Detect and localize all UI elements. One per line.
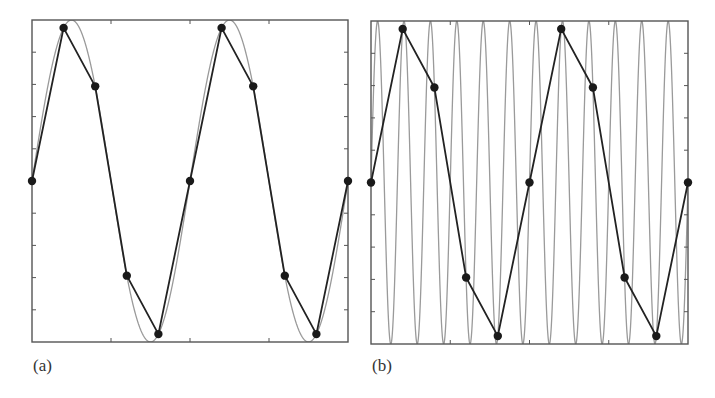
plot-b — [360, 0, 715, 398]
sample-point — [344, 177, 352, 185]
sample-point — [249, 82, 257, 90]
sample-point — [399, 25, 407, 33]
panel-label-a: (a) — [33, 356, 52, 376]
sample-point — [652, 332, 660, 340]
sample-point — [186, 177, 194, 185]
sample-point — [217, 24, 225, 32]
sample-point — [557, 25, 565, 33]
plot-a — [0, 0, 360, 398]
sample-point — [620, 273, 628, 281]
sample-point — [123, 271, 131, 279]
sample-point — [281, 271, 289, 279]
sample-point — [525, 178, 533, 186]
panel-b: (b) — [360, 0, 715, 398]
sample-point — [312, 330, 320, 338]
sample-point — [589, 83, 597, 91]
sample-point — [91, 82, 99, 90]
sample-point — [494, 332, 502, 340]
sample-point — [154, 330, 162, 338]
sample-point — [462, 273, 470, 281]
sample-point — [59, 24, 67, 32]
sample-point — [367, 178, 375, 186]
sample-point — [28, 177, 36, 185]
sample-point — [684, 178, 692, 186]
sample-point — [430, 83, 438, 91]
panel-a: (a) — [0, 0, 360, 398]
panel-label-b: (b) — [372, 356, 392, 376]
